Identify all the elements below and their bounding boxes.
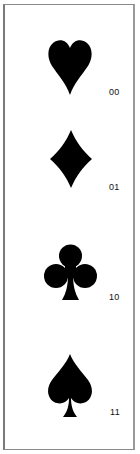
club-icon bbox=[44, 244, 97, 300]
code-label-clubs: 10 bbox=[109, 292, 120, 302]
code-label-spades: 11 bbox=[110, 407, 120, 417]
diamond-icon bbox=[50, 130, 92, 188]
code-label-diamonds: 01 bbox=[109, 182, 120, 192]
code-label-hearts: 00 bbox=[109, 87, 120, 97]
figure-frame: 00 01 10 11 bbox=[3, 4, 135, 450]
spade-icon bbox=[47, 354, 93, 417]
heart-icon bbox=[47, 39, 93, 95]
